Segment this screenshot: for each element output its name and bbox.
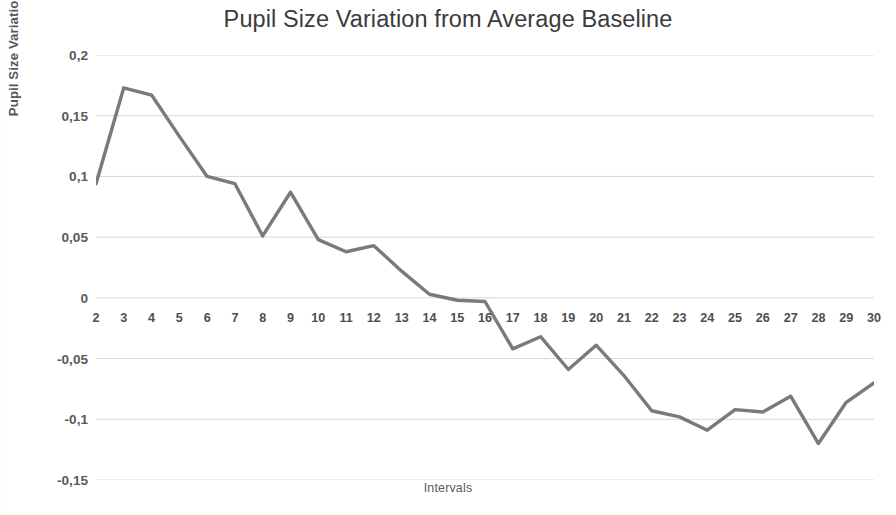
y-tick-label: 0 [28, 290, 88, 305]
y-tick-label: -0,05 [28, 351, 88, 366]
y-tick-label: 0,05 [28, 230, 88, 245]
y-tick-label: 0,15 [28, 108, 88, 123]
y-axis-tick-labels: 0,20,150,10,050-0,05-0,1-0,15 [22, 55, 88, 480]
y-tick-label: 0,1 [28, 169, 88, 184]
plot-area [96, 55, 874, 480]
y-tick-label: -0,1 [28, 412, 88, 427]
x-axis-tick-labels: 2345678910111213141516171819202122232425… [96, 311, 874, 331]
chart-title: Pupil Size Variation from Average Baseli… [0, 6, 896, 33]
gridlines [96, 55, 874, 480]
x-tick-label: 30 [857, 311, 891, 325]
x-axis-title: Intervals [0, 481, 896, 495]
line-chart: Pupil Size Variation from Average Baseli… [0, 0, 896, 515]
plot-svg [96, 55, 874, 480]
data-series-line [96, 88, 874, 444]
y-tick-label: 0,2 [28, 48, 88, 63]
